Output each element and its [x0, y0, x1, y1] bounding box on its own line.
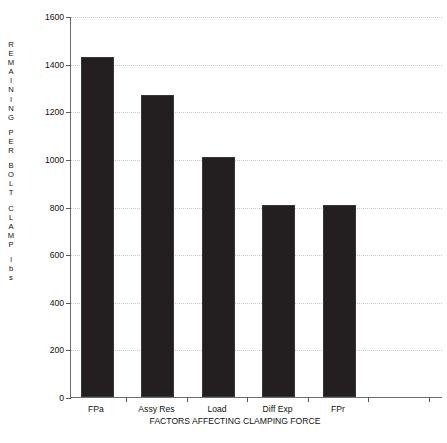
gridline	[71, 208, 442, 210]
y-axis-title-char: O	[8, 170, 14, 179]
plot-area	[70, 17, 442, 398]
y-axis-tick-label: 600	[22, 250, 64, 260]
x-axis-tick	[368, 397, 369, 402]
bar	[323, 205, 356, 398]
y-axis-tick	[66, 208, 71, 209]
y-axis-tick	[66, 160, 71, 161]
y-axis-tick-label: 800	[22, 203, 64, 213]
bar	[141, 95, 174, 397]
x-axis-tick	[187, 397, 188, 402]
x-axis-category-label: Diff Exp	[263, 404, 293, 414]
y-axis-title-char: R	[8, 40, 13, 49]
y-axis-tick-label: 1200	[22, 107, 64, 117]
y-axis-title-char: G	[8, 113, 14, 122]
y-axis-title-char: I	[10, 95, 12, 104]
y-axis-title-char: A	[8, 67, 13, 76]
y-axis-title-char: B	[8, 161, 13, 170]
x-axis-category-label: Assy Res	[138, 404, 174, 414]
y-axis-title-char: E	[8, 49, 13, 58]
y-axis-title-char: E	[8, 137, 13, 146]
y-axis-title-char: M	[8, 231, 14, 240]
y-axis-title: REMAININGPERBOLTCLAMPlbs	[2, 40, 20, 390]
bar-chart: REMAININGPERBOLTCLAMPlbs 160014001200100…	[0, 0, 447, 443]
y-axis-tick	[66, 255, 71, 256]
y-axis-tick-label: 1600	[22, 12, 64, 22]
y-axis-title-char: R	[8, 146, 13, 155]
y-axis-title-char: P	[8, 128, 13, 137]
y-axis-tick	[66, 65, 71, 66]
y-axis-title-char: l	[10, 255, 12, 264]
y-axis-tick-label: 200	[22, 345, 64, 355]
x-axis-category-label: Load	[207, 404, 226, 414]
y-axis-title-char: M	[8, 58, 14, 67]
y-axis-title-char: L	[9, 179, 13, 188]
gridline	[71, 65, 442, 67]
y-axis-tick-label: 400	[22, 298, 64, 308]
x-axis-category-label: FPr	[331, 404, 345, 414]
x-axis-tick	[126, 397, 127, 402]
gridline	[71, 112, 442, 114]
bar	[262, 205, 295, 398]
y-axis-title-char: N	[8, 85, 13, 94]
x-axis-title: FACTORS AFFECTING CLAMPING FORCE	[70, 416, 400, 426]
x-axis-tick	[247, 397, 248, 402]
gridline	[71, 255, 442, 257]
y-axis-title-char: L	[9, 213, 13, 222]
y-axis-tick-label: 0	[22, 393, 64, 403]
y-axis-title-char: b	[9, 264, 13, 273]
y-axis-tick	[66, 303, 71, 304]
x-axis-category-label: FPa	[88, 404, 104, 414]
gridline	[71, 17, 442, 19]
bar	[202, 157, 235, 397]
gridline	[71, 160, 442, 162]
y-axis-title-char: C	[8, 204, 13, 213]
y-axis-tick-label: 1000	[22, 155, 64, 165]
x-axis-tick	[429, 397, 430, 402]
y-axis-title-char: s	[9, 273, 13, 282]
y-axis-title-char: P	[8, 240, 13, 249]
y-axis-title-char: N	[8, 104, 13, 113]
gridline	[71, 350, 442, 352]
x-axis-tick	[308, 397, 309, 402]
bar	[81, 57, 114, 397]
y-axis-tick	[66, 17, 71, 18]
y-axis-tick-label: 1400	[22, 60, 64, 70]
y-axis-title-char: I	[10, 76, 12, 85]
y-axis-tick	[66, 112, 71, 113]
gridline	[71, 303, 442, 305]
y-axis-tick	[66, 398, 71, 399]
y-axis-tick	[66, 350, 71, 351]
y-axis-title-char: A	[8, 222, 13, 231]
y-axis-title-char: T	[9, 188, 14, 197]
